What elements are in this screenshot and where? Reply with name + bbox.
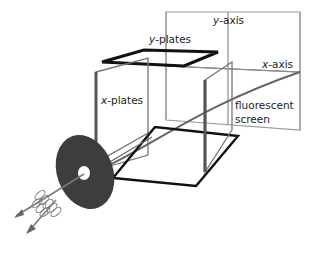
- label-x-axis: x-axis: [261, 58, 293, 70]
- y-plate-bottom: [113, 127, 238, 186]
- anode-disc: [46, 127, 125, 218]
- crt-diagram: y-plates x-plates y-axis x-axis fluoresc…: [0, 0, 332, 257]
- label-y-plates: y-plates: [148, 33, 191, 45]
- y-plate-top: [102, 50, 218, 66]
- label-y-axis: y-axis: [212, 14, 244, 26]
- label-fluorescent: fluorescent: [235, 99, 294, 111]
- label-x-plates: x-plates: [100, 94, 143, 106]
- label-screen: screen: [235, 113, 270, 125]
